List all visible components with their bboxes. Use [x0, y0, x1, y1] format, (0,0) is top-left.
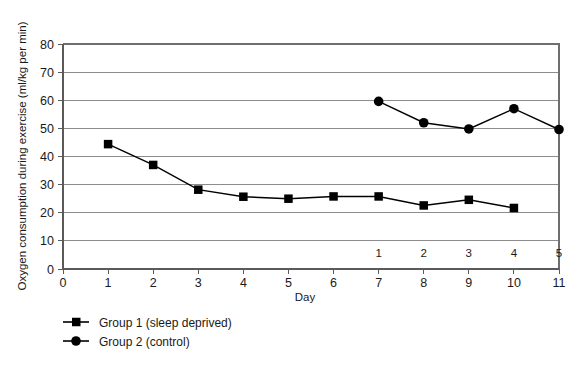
y-tick-label: 40	[40, 150, 54, 164]
group-2-marker	[554, 125, 564, 135]
group-1-marker	[374, 192, 383, 201]
group-1-marker	[419, 201, 428, 210]
x-tick-label: 2	[150, 276, 157, 290]
y-axis-title: Oxygen consumption during exercise (ml/k…	[16, 21, 28, 290]
legend-square-marker	[72, 318, 81, 327]
group-1-marker	[329, 192, 338, 201]
group-1-marker	[239, 192, 248, 201]
x-tick-label: 1	[105, 276, 112, 290]
oxygen-consumption-line-chart: 01020304050607080 01234567891011 12345 D…	[0, 0, 573, 365]
x-tick-label: 5	[285, 276, 292, 290]
x-axis-ticks: 01234567891011	[60, 269, 566, 290]
group-1-marker	[284, 194, 293, 203]
y-tick-label: 50	[40, 122, 54, 136]
secondary-x-tick-label: 2	[421, 247, 427, 259]
secondary-x-tick-label: 3	[466, 247, 472, 259]
y-tick-label: 20	[40, 206, 54, 220]
group-1-marker	[149, 161, 158, 170]
group-1-marker	[104, 140, 113, 149]
legend-item: Group 2 (control)	[63, 335, 190, 349]
x-tick-label: 9	[465, 276, 472, 290]
group-1-marker	[465, 196, 474, 205]
x-tick-label: 8	[420, 276, 427, 290]
secondary-x-tick-label: 5	[556, 247, 562, 259]
secondary-x-tick-label: 1	[375, 247, 381, 259]
y-tick-label: 10	[40, 234, 54, 248]
y-tick-label: 60	[40, 94, 54, 108]
group-2-marker	[419, 118, 429, 128]
y-tick-label: 70	[40, 66, 54, 80]
group-2-marker	[374, 97, 384, 107]
x-tick-label: 6	[330, 276, 337, 290]
legend-circle-marker	[71, 336, 81, 346]
group-2-marker	[464, 124, 474, 134]
x-tick-label: 0	[60, 276, 67, 290]
group-1-marker	[194, 185, 203, 194]
legend-label: Group 1 (sleep deprived)	[99, 316, 232, 330]
legend-label: Group 2 (control)	[99, 335, 190, 349]
y-tick-label: 30	[40, 178, 54, 192]
chart-container: 01020304050607080 01234567891011 12345 D…	[0, 0, 573, 365]
group-2-marker	[509, 104, 519, 114]
legend-item: Group 1 (sleep deprived)	[63, 316, 232, 330]
chart-legend: Group 1 (sleep deprived)Group 2 (control…	[63, 316, 232, 349]
y-tick-label: 0	[47, 263, 54, 277]
y-tick-label: 80	[40, 38, 54, 52]
x-tick-label: 3	[195, 276, 202, 290]
y-axis-ticks: 01020304050607080	[40, 38, 63, 277]
x-tick-label: 11	[553, 276, 566, 290]
x-tick-label: 4	[240, 276, 247, 290]
x-tick-label: 7	[375, 276, 382, 290]
x-tick-label: 10	[507, 276, 521, 290]
group-1-marker	[510, 204, 519, 213]
x-axis-title: Day	[295, 291, 316, 303]
secondary-x-tick-label: 4	[511, 247, 518, 259]
